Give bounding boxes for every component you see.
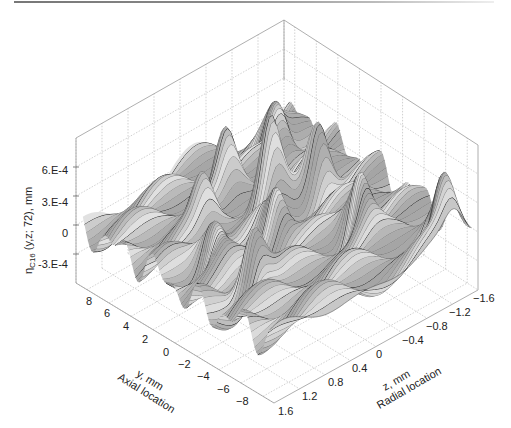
y-tick-label: 6 xyxy=(104,307,110,319)
y-tick-label: 2 xyxy=(142,333,148,345)
y-tick-label: −4 xyxy=(197,370,210,382)
x-tick-label: −0.8 xyxy=(426,320,448,332)
surface-mesh xyxy=(83,101,472,355)
y-tick-label: 8 xyxy=(86,295,92,307)
z-axis-label-subscript: C16 xyxy=(28,253,37,268)
y-tick-label: −8 xyxy=(236,395,249,407)
z-axis-label: ηC16 (y,z; 72), mm xyxy=(22,187,37,274)
z-axis-label-rest: (y,z; 72), mm xyxy=(22,187,34,253)
x-tick-label: 0.4 xyxy=(352,362,367,374)
x-tick-label: −1.6 xyxy=(473,292,495,304)
y-tick-label: 4 xyxy=(123,320,129,332)
z-tick-label: 0 xyxy=(62,227,68,239)
x-tick-label: −1.2 xyxy=(449,306,471,318)
surface-plot: 6.E-4 3.E-4 0 -3.E-4 ηC16 (y,z; 72), mm … xyxy=(0,0,511,428)
z-tick-label: 3.E-4 xyxy=(42,196,68,208)
y-tick-label: −2 xyxy=(178,358,191,370)
x-tick-label: 1.6 xyxy=(278,405,293,417)
y-tick-label: −6 xyxy=(217,383,230,395)
x-axis-label: z, mm Radial location xyxy=(368,353,443,411)
x-tick-label: 1.2 xyxy=(302,390,317,402)
z-tick-label: -3.E-4 xyxy=(38,258,68,270)
x-tick-label: 0.8 xyxy=(328,376,343,388)
y-axis-label: y, mm Axial location xyxy=(116,360,184,416)
x-tick-label: 0 xyxy=(376,348,382,360)
x-tick-label: −0.4 xyxy=(402,334,424,346)
z-tick-label: 6.E-4 xyxy=(42,164,68,176)
y-tick-label: 0 xyxy=(163,346,169,358)
